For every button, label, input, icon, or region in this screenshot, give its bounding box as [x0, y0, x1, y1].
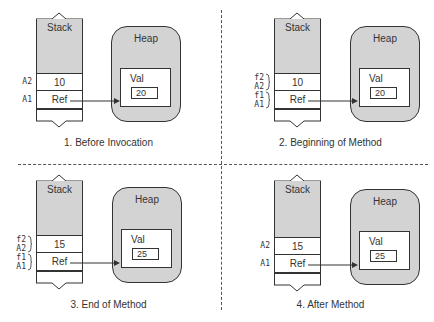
stack-row-f2-a2: 15 [36, 235, 83, 253]
val-label: Val [131, 234, 145, 245]
stack-bottom-zigzag [274, 284, 321, 294]
heap-label: Heap [351, 33, 419, 44]
stack-bottom-zigzag [274, 120, 321, 130]
heap: Heap Val 25 [350, 189, 420, 285]
val-value: 25 [370, 250, 397, 262]
panel-caption: 4. After Method [222, 299, 434, 310]
heap-object: Val 20 [359, 68, 410, 107]
row-label-f1-a1: f1 A1 [14, 253, 26, 271]
reference-arrow [308, 97, 360, 105]
reference-arrow [70, 259, 122, 267]
heap-label: Heap [351, 196, 419, 207]
val-value: 25 [132, 248, 159, 260]
brace-icon [27, 235, 33, 253]
reference-arrow [308, 261, 360, 269]
row-label-f2-a2: f2 A2 [252, 73, 264, 91]
stack-row-f2-a2: 10 [274, 73, 321, 91]
row-label-f1-a1: f1 A1 [252, 91, 264, 109]
stack-label: Stack [274, 22, 321, 33]
stack-bottom-zigzag [36, 282, 83, 292]
heap: Heap Val 20 [350, 26, 420, 122]
val-value: 20 [370, 87, 397, 99]
brace-icon [265, 91, 271, 109]
val-label: Val [369, 73, 383, 84]
stack-label: Stack [36, 184, 83, 195]
stack-label: Stack [274, 184, 321, 195]
heap-label: Heap [113, 194, 181, 205]
brace-icon [27, 253, 33, 271]
panel-caption: 2. Beginning of Method [222, 137, 434, 148]
heap-object: Val 25 [121, 229, 172, 268]
brace-icon [265, 73, 271, 91]
panel-after-method: Stack 15 Ref A2 A1 Heap Val 25 4. After … [0, 0, 217, 161]
row-label-a1: A1 [254, 259, 270, 268]
vertical-divider [221, 10, 222, 310]
row-label-f2-a2: f2 A2 [14, 235, 26, 253]
row-label-a2: A2 [254, 241, 270, 250]
stack-row-a2: 15 [274, 237, 321, 255]
val-label: Val [369, 236, 383, 247]
panel-caption: 3. End of Method [0, 299, 217, 310]
horizontal-divider [18, 164, 428, 165]
heap-object: Val 25 [359, 231, 410, 270]
heap: Heap Val 25 [112, 187, 182, 283]
